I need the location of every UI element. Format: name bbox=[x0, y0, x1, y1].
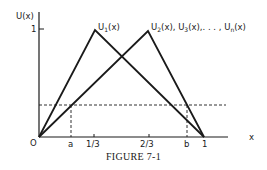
x-tick-label-a: a bbox=[68, 139, 73, 149]
curve-u1 bbox=[39, 30, 204, 137]
x-tick-label-one-third: 1/3 bbox=[86, 139, 100, 149]
x-tick-label-two-thirds: 2/3 bbox=[140, 139, 154, 149]
x-axis-label: x bbox=[249, 132, 254, 142]
figure-caption: FIGURE 7-1 bbox=[106, 151, 161, 162]
origin-label: O bbox=[30, 138, 37, 148]
y-tick-label-one: 1 bbox=[31, 24, 36, 34]
x-tick-label-b: b bbox=[184, 139, 189, 149]
u1-label: U1(x) bbox=[98, 22, 120, 33]
u2-un-label: U2(x), U3(x),. . . , Un(x) bbox=[151, 22, 246, 33]
curve-u2-un bbox=[39, 31, 204, 137]
x-tick-label-one: 1 bbox=[202, 139, 207, 149]
figure-7-1: U(x) 1 U1(x) U2(x), U3(x),. . . , Un(x) … bbox=[0, 0, 267, 170]
y-axis-label: U(x) bbox=[16, 11, 34, 21]
